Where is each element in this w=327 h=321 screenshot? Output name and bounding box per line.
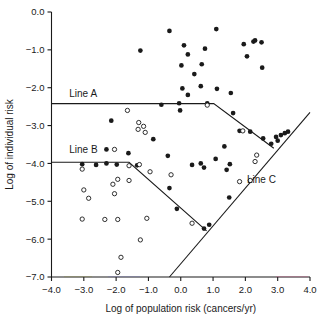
x-axis-tick-label: 1.0 — [206, 284, 219, 295]
data-point-open — [119, 255, 123, 259]
data-point-open — [116, 270, 120, 274]
data-point-filled — [178, 108, 183, 113]
data-point-filled — [151, 137, 156, 142]
data-point-open — [125, 108, 129, 112]
data-point-filled — [248, 129, 253, 134]
y-axis-tick-label: −5.0 — [26, 196, 45, 207]
y-axis-title: Log of individual risk — [4, 98, 15, 190]
data-point-filled — [180, 86, 185, 91]
data-point-filled — [260, 65, 265, 70]
data-point-filled — [286, 129, 291, 134]
data-point-open — [137, 120, 141, 124]
data-point-filled — [159, 102, 164, 107]
line-b-label: Line B — [69, 144, 98, 155]
data-point-filled — [94, 163, 99, 168]
y-axis-tick-label: −6.0 — [26, 234, 45, 245]
data-point-open — [137, 162, 141, 166]
data-point-filled — [269, 141, 274, 146]
data-point-filled — [215, 87, 220, 92]
data-point-filled — [213, 157, 218, 162]
data-point-open — [169, 173, 173, 177]
data-point-open — [103, 217, 107, 221]
data-point-filled — [177, 101, 182, 106]
data-point-filled — [202, 165, 207, 170]
data-point-filled — [165, 154, 170, 159]
data-point-filled — [190, 163, 195, 168]
x-axis-tick-label: −3.0 — [74, 284, 93, 295]
data-point-filled — [104, 161, 109, 166]
data-point-filled — [186, 52, 191, 57]
data-point-filled — [241, 42, 246, 47]
data-point-open — [80, 167, 84, 171]
data-point-open — [141, 124, 145, 128]
data-point-open — [136, 127, 140, 131]
data-point-filled — [245, 54, 250, 59]
data-point-filled — [198, 84, 203, 89]
data-point-open — [148, 170, 152, 174]
x-axis-tick-label: 4.0 — [303, 284, 316, 295]
x-axis-tick-label: −2.0 — [107, 284, 126, 295]
data-point-open — [80, 217, 84, 221]
scatter-plot-figure: 0.0−1.0−2.0−3.0−4.0−5.0−6.0−7.0−4.0−3.0−… — [0, 0, 327, 321]
data-point-filled — [167, 29, 172, 34]
y-axis-tick-label: −3.0 — [26, 120, 45, 131]
y-axis-tick-label: −7.0 — [26, 271, 45, 282]
data-point-filled — [253, 38, 258, 43]
data-point-filled — [186, 93, 191, 98]
data-point-filled — [138, 48, 143, 53]
line-c-label: Line C — [247, 174, 276, 185]
y-axis-tick-label: −1.0 — [26, 44, 45, 55]
data-point-open — [255, 153, 259, 157]
data-point-filled — [182, 43, 187, 48]
data-point-open — [143, 130, 147, 134]
data-point-filled — [114, 162, 119, 167]
data-point-open — [82, 188, 86, 192]
data-point-open — [237, 179, 241, 183]
data-point-filled — [275, 138, 280, 143]
data-point-filled — [231, 111, 236, 116]
data-point-filled — [202, 226, 207, 231]
data-point-filled — [222, 144, 227, 149]
data-point-filled — [203, 46, 208, 51]
data-point-filled — [126, 151, 131, 156]
data-point-open — [116, 177, 120, 181]
data-point-filled — [207, 222, 212, 227]
data-point-open — [116, 217, 120, 221]
y-axis-tick-label: −4.0 — [26, 158, 45, 169]
data-point-filled — [228, 162, 233, 167]
data-point-filled — [167, 186, 172, 191]
data-point-filled — [192, 72, 197, 77]
data-point-filled — [259, 40, 264, 45]
data-point-open — [112, 192, 116, 196]
y-axis-tick-label: 0.0 — [31, 6, 44, 17]
data-point-open — [127, 178, 131, 182]
data-point-open — [111, 182, 115, 186]
data-point-open — [205, 103, 209, 107]
data-point-open — [145, 216, 149, 220]
data-point-open — [87, 196, 91, 200]
data-point-filled — [228, 91, 233, 96]
data-point-filled — [224, 168, 229, 173]
data-point-open — [241, 129, 245, 133]
plot-canvas: 0.0−1.0−2.0−3.0−4.0−5.0−6.0−7.0−4.0−3.0−… — [0, 0, 327, 321]
data-point-open — [190, 221, 194, 225]
data-point-filled — [80, 162, 85, 167]
data-point-open — [138, 238, 142, 242]
data-point-filled — [227, 195, 232, 200]
data-point-open — [112, 147, 116, 151]
data-point-filled — [261, 136, 266, 141]
data-point-filled — [104, 147, 109, 152]
data-point-filled — [214, 27, 219, 32]
data-point-open — [253, 159, 257, 163]
data-point-filled — [179, 63, 184, 68]
plot-background — [0, 0, 327, 321]
x-axis-tick-label: 2.0 — [239, 284, 252, 295]
data-point-filled — [198, 161, 203, 166]
data-point-filled — [175, 207, 180, 212]
x-axis-tick-label: 3.0 — [271, 284, 284, 295]
line-a-label: Line A — [69, 88, 97, 99]
x-axis-tick-label: 0.0 — [174, 284, 187, 295]
data-point-open — [127, 164, 131, 168]
data-point-filled — [199, 62, 204, 67]
data-point-filled — [109, 118, 114, 123]
